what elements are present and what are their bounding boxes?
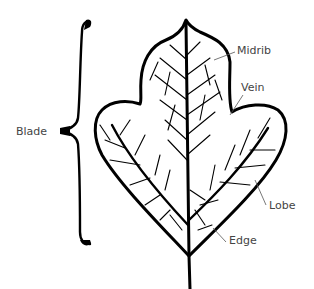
leaf-diagram: Blade Midrib Vein Lobe Edge: [0, 0, 314, 289]
edge-label: Edge: [229, 235, 257, 246]
midrib-label: Midrib: [237, 45, 271, 56]
blade-brace: [60, 19, 91, 245]
lobe-label: Lobe: [269, 200, 295, 211]
blade-label: Blade: [16, 126, 47, 137]
vein-label: Vein: [241, 82, 264, 93]
edge-leader: [213, 228, 226, 242]
